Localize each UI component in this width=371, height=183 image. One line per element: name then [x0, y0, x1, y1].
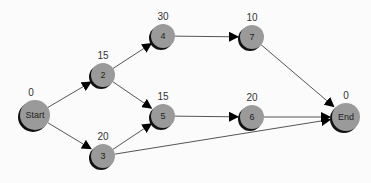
edge-n3-end [115, 120, 330, 155]
node-value: 0 [343, 90, 349, 101]
node-label: 3 [100, 151, 105, 161]
network-diagram: Start0215320430515620710End0 [0, 0, 371, 183]
node-label: 7 [249, 32, 254, 42]
edge-n7-end [261, 45, 334, 107]
node-value: 10 [246, 12, 257, 23]
node-value: 0 [28, 87, 34, 98]
edges-layer [0, 0, 371, 183]
node-label: 4 [160, 31, 165, 41]
node-label: Start [25, 110, 44, 120]
edge-n2-n4 [113, 44, 151, 69]
node-value: 20 [246, 92, 257, 103]
edge-n4-n7 [175, 36, 238, 37]
edge-start-n2 [48, 82, 91, 107]
node-value: 30 [157, 11, 168, 22]
edge-start-n3 [48, 123, 91, 149]
node-value: 20 [97, 131, 108, 142]
edge-n3-n5 [113, 124, 151, 150]
node-label: 2 [100, 70, 105, 80]
edge-n2-n5 [113, 82, 152, 108]
node-value: 15 [157, 91, 168, 102]
node-label: End [338, 112, 354, 122]
node-label: 6 [249, 112, 254, 122]
node-value: 15 [97, 50, 108, 61]
node-label: 5 [160, 111, 165, 121]
edge-n5-n6 [175, 116, 238, 117]
